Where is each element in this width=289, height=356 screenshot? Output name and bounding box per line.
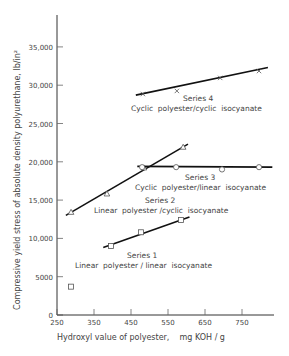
plot-area bbox=[66, 68, 272, 290]
x-tick-label: 550 bbox=[161, 319, 174, 327]
series4-name: Series 4 bbox=[183, 94, 213, 103]
y-tick-label: 5000 bbox=[35, 274, 53, 282]
series-4 bbox=[136, 68, 268, 97]
y-axis: 0500010,00015,00020,00025,00030,00035,00… bbox=[29, 15, 64, 320]
y-tick-label: 15,000 bbox=[29, 197, 54, 205]
y-tick-label: 25,000 bbox=[29, 121, 54, 129]
x-tick-label: 350 bbox=[87, 319, 100, 327]
series4-desc: Cyclic polyester/cyclic isocyanate bbox=[131, 104, 262, 113]
x-tick-label: 750 bbox=[235, 319, 248, 327]
x-tick-label: 450 bbox=[124, 319, 137, 327]
series1-desc: Linear polyester / linear isocyanate bbox=[75, 261, 212, 270]
chart: 0500010,00015,00020,00025,00030,00035,00… bbox=[0, 0, 289, 356]
series2-name: Series 2 bbox=[145, 196, 175, 205]
x-axis-label: Hydroxyl value of polyester, mg KOH / g bbox=[57, 333, 225, 342]
x-axis: 250350450550650750 bbox=[50, 309, 274, 327]
series2-desc: Linear polyester /cyclic isocyanate bbox=[94, 206, 229, 215]
x-tick-label: 650 bbox=[198, 319, 211, 327]
series3-desc: Cyclic polyester/linear isocyanate bbox=[135, 183, 266, 192]
y-tick-label: 10,000 bbox=[29, 235, 54, 243]
y-tick-label: 30,000 bbox=[29, 82, 54, 90]
x-tick-label: 250 bbox=[50, 319, 63, 327]
series3-name: Series 3 bbox=[185, 173, 215, 182]
y-axis-label: Compressive yield stress of absolute den… bbox=[13, 50, 22, 310]
y-tick-label: 20,000 bbox=[29, 159, 54, 167]
y-tick-label: 35,000 bbox=[29, 44, 54, 52]
series1-name: Series 1 bbox=[127, 251, 157, 260]
series-3 bbox=[137, 165, 272, 172]
